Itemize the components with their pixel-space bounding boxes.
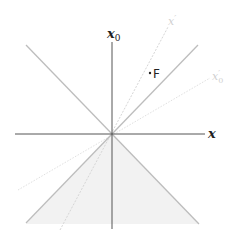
boosted-time-axis-label: x0′ [212,68,223,85]
event-point-f-marker [149,72,151,74]
time-axis-label: x0 [106,26,121,43]
time-axis-subscript: 0 [115,33,121,43]
spacetime-diagram: x0 x x′ x0′ F [0,0,240,248]
space-axis-label: x [207,126,216,141]
boosted-space-axis-label: x′ [168,14,176,28]
event-point-f-label: F [153,67,160,81]
